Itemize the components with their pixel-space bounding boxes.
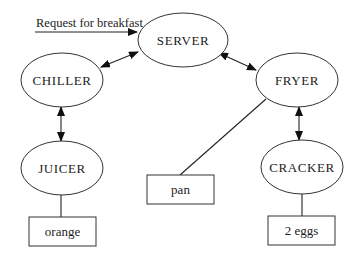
node-cracker: CRACKER <box>261 140 343 194</box>
resource-eggs: 2 eggs <box>268 216 335 245</box>
breakfast-diagram: Request for breakfast SERVER CHILLER FRY… <box>0 0 361 263</box>
node-juicer: JUICER <box>21 141 103 195</box>
node-fryer: FRYER <box>256 53 338 107</box>
server-label: SERVER <box>157 33 209 48</box>
edge-fryer-pan <box>180 99 266 175</box>
request-arrow: Request for breakfast <box>35 16 143 32</box>
request-label: Request for breakfast <box>36 16 143 30</box>
eggs-label: 2 eggs <box>285 223 319 238</box>
orange-label: orange <box>45 224 81 239</box>
resource-orange: orange <box>29 217 96 246</box>
resource-pan: pan <box>147 175 214 204</box>
chiller-label: CHILLER <box>32 73 91 88</box>
edge-server-fryer <box>219 53 256 70</box>
juicer-label: JUICER <box>38 161 86 176</box>
node-server: SERVER <box>138 13 228 67</box>
edge-server-chiller <box>101 52 138 67</box>
cracker-label: CRACKER <box>269 160 335 175</box>
fryer-label: FRYER <box>275 73 319 88</box>
pan-label: pan <box>171 182 190 197</box>
node-chiller: CHILLER <box>21 53 103 107</box>
